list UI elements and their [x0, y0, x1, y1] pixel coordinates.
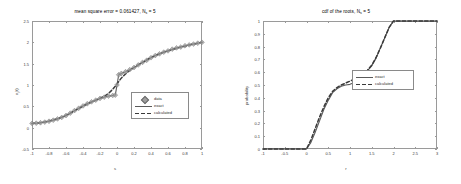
legend-label: exact — [154, 103, 164, 108]
data-point-marker — [59, 115, 64, 120]
left-plot-panel: mean square error = 0.061427, Ns = 5 -1-… — [0, 0, 230, 184]
legend-label: calculated — [375, 81, 393, 86]
right-plot-panel: cdf of the roots, Ns = 5 -1-0.500.511.52… — [231, 0, 461, 184]
legend-item: data — [135, 95, 185, 102]
legend-label: data — [154, 96, 162, 101]
legend-item: calculated — [356, 80, 410, 87]
data-point-marker — [191, 42, 196, 47]
data-point-marker — [183, 43, 188, 48]
left-plot-legend[interactable]: data exact calculated — [131, 92, 189, 119]
data-point-marker — [195, 41, 200, 46]
diamond-marker-icon — [135, 95, 152, 102]
dashed-line-icon — [135, 109, 152, 116]
data-point-marker — [178, 45, 183, 50]
data-point-marker — [51, 118, 56, 123]
data-point-marker — [47, 119, 52, 124]
solid-line-icon — [135, 102, 152, 109]
data-point-marker — [38, 120, 43, 125]
legend-item: exact — [135, 102, 185, 109]
solid-line-icon — [356, 73, 373, 80]
legend-item: exact — [356, 73, 410, 80]
figure-canvas: mean square error = 0.061427, Ns = 5 -1-… — [0, 0, 461, 184]
right-plot-legend[interactable]: exact calculated — [352, 70, 414, 90]
data-point-marker — [30, 121, 35, 126]
legend-label: calculated — [154, 110, 172, 115]
data-point-marker — [200, 40, 205, 45]
left-plot-curves — [0, 0, 230, 184]
data-point-marker — [34, 121, 39, 126]
data-point-marker — [187, 42, 192, 47]
legend-item: calculated — [135, 109, 185, 116]
right-plot-curves — [231, 0, 461, 184]
legend-label: exact — [375, 74, 385, 79]
data-point-marker — [42, 120, 47, 125]
dashed-line-icon — [356, 80, 373, 87]
